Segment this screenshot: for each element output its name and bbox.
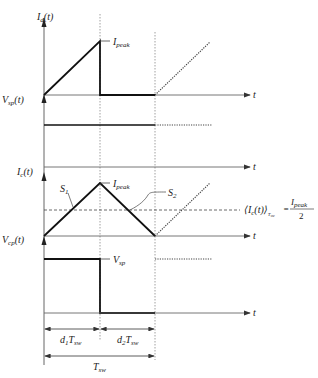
ic-peak-label: Ipeak — [112, 178, 130, 191]
vcp-axis-label: Vcp(t) — [2, 234, 25, 247]
ic-axis-label: Ic(t) — [16, 166, 34, 179]
vsp-time-label: t — [253, 161, 256, 172]
d2-tsw-label: d2Tsw — [117, 334, 139, 347]
average-lhs: ⟨Ic(t)⟩Tsw — [244, 204, 275, 218]
vcp-axis-arrow-icon — [42, 236, 47, 245]
slope-s1-label: S1 — [60, 183, 69, 196]
ic-time-label: t — [253, 230, 256, 241]
average-denominator: 2 — [299, 211, 304, 221]
dimension-annotations: d1Tsw d2Tsw Tsw — [45, 329, 154, 374]
id-time-label: t — [253, 89, 256, 100]
panel-inductor-current: Id(t) Ipeak t — [36, 11, 256, 100]
panel-capacitor-current: Ic(t) Ipeak S1 S2 t — [16, 166, 256, 241]
vcp-time-label: t — [253, 307, 256, 318]
timing-diagram: Id(t) Ipeak t Vsp(t) t Ic(t) Ipeak S1 S2… — [0, 0, 318, 378]
average-equals: = — [283, 204, 289, 214]
average-equation: ⟨Ic(t)⟩Tsw = Ipeak 2 — [244, 197, 314, 221]
vsp-axis-label: Vsp(t) — [2, 94, 24, 107]
panel-switch-voltage-cp: Vcp(t) Vsp t — [2, 234, 256, 318]
d1-tsw-label: d1Tsw — [60, 334, 82, 347]
panel-switch-voltage-sp: Vsp(t) t — [2, 94, 256, 172]
slope-s2-label: S2 — [168, 187, 177, 200]
average-numerator: Ipeak — [290, 197, 308, 209]
ic-axis-arrow-icon — [42, 172, 47, 181]
tsw-label: Tsw — [93, 361, 106, 374]
vcp-level-label: Vsp — [113, 254, 126, 267]
id-peak-label: Ipeak — [112, 36, 130, 49]
